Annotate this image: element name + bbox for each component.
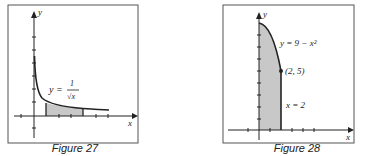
equation-label: y = 9 − x² bbox=[279, 38, 317, 48]
x-axis-label: x bbox=[345, 132, 350, 142]
x-axis-label: x bbox=[127, 118, 132, 128]
figure-27: y x y = 1 √x Figure 27 bbox=[0, 0, 180, 156]
line-label: x = 2 bbox=[285, 100, 306, 110]
y-axis-arrow-icon bbox=[31, 11, 37, 18]
equation-numerator: 1 bbox=[70, 79, 74, 88]
y-axis-label: y bbox=[37, 7, 42, 17]
shaded-area bbox=[46, 103, 83, 116]
shaded-area bbox=[259, 23, 281, 130]
y-axis-label: y bbox=[262, 9, 267, 19]
x-axis-arrow-icon bbox=[132, 113, 138, 119]
figure-28-graph: y x y = 9 − x² (2, 5) x = 2 bbox=[180, 0, 365, 156]
y-axis-arrow-icon bbox=[256, 12, 262, 19]
point-label: (2, 5) bbox=[285, 66, 305, 76]
point-marker bbox=[279, 69, 283, 73]
figure-28: y x y = 9 − x² (2, 5) x = 2 Figure 28 bbox=[180, 0, 365, 156]
equation-denominator: √x bbox=[67, 92, 75, 101]
figure-frame bbox=[8, 5, 138, 143]
figure-28-caption: Figure 28 bbox=[262, 142, 332, 154]
equation-lhs: y = bbox=[48, 84, 63, 95]
figure-27-caption: Figure 27 bbox=[40, 142, 110, 154]
figure-27-graph: y x y = 1 √x bbox=[0, 0, 180, 156]
